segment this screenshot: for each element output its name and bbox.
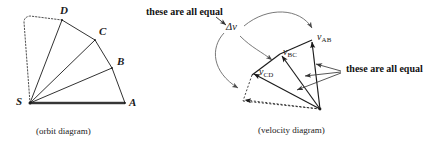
orbit-vertex-A xyxy=(124,102,126,104)
annotation-arrow-right-to-chord-1 xyxy=(316,64,341,71)
velocity-label-vCD: vCD xyxy=(259,67,274,79)
annotation-arrow-right-to-chord-3 xyxy=(297,73,341,90)
annotation-curve-deltav-to-chord-CD xyxy=(215,33,238,88)
orbit-vertex-B xyxy=(111,67,113,69)
velocity-label-vAB: vAB xyxy=(317,32,332,44)
annotation-arrow-to-deltav xyxy=(216,17,226,25)
annotation-note-right: these are all equal xyxy=(346,64,423,74)
orbit-chord-AB xyxy=(112,68,125,103)
orbit-diagram-caption: (orbit diagram) xyxy=(36,127,91,136)
orbit-vertex-D xyxy=(61,19,63,21)
orbit-chord-CD xyxy=(62,20,95,40)
orbit-radius-SB xyxy=(30,68,112,103)
annotation-note-top: these are all equal xyxy=(146,7,223,17)
orbit-label-C: C xyxy=(99,26,106,37)
orbit-chord-BC xyxy=(95,40,112,68)
delta-v-text: Δv xyxy=(226,21,237,32)
orbit-label-S: S xyxy=(16,96,22,107)
orbit-label-A: A xyxy=(129,97,136,108)
vAB-subscript: AB xyxy=(321,36,331,44)
figure-root: S A B C D (orbit diagram) Δv vAB vBC vCD… xyxy=(0,0,441,149)
velocity-vector-vCD xyxy=(254,74,320,109)
velocity-label-vBC: vBC xyxy=(283,47,297,59)
orbit-diagram-group xyxy=(24,16,126,105)
orbit-radius-SC xyxy=(30,40,95,103)
orbit-label-D: D xyxy=(60,5,68,16)
velocity-diagram-caption: (velocity diagram) xyxy=(258,126,325,135)
annotation-curve-deltav-to-chord-BC xyxy=(240,36,272,60)
velocity-origin-point xyxy=(319,108,322,111)
vBC-subscript: BC xyxy=(287,51,297,59)
velocity-closing-edge xyxy=(243,101,320,109)
orbit-radius-SD xyxy=(30,20,62,103)
velocity-label-delta-v: Δv xyxy=(226,22,237,33)
orbit-vertex-S xyxy=(29,102,32,105)
orbit-vertex-C xyxy=(94,39,96,41)
annotation-curve-deltav-to-chord-AB xyxy=(244,12,312,28)
velocity-delta-chord-CD-DE xyxy=(243,75,252,101)
orbit-label-B: B xyxy=(117,56,124,67)
vCD-subscript: CD xyxy=(263,71,273,79)
